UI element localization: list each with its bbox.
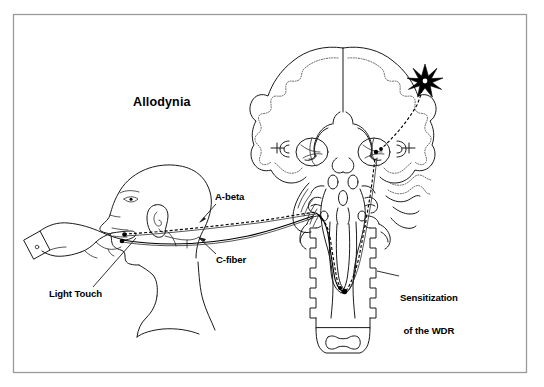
c-fiber-label: C-fiber (216, 255, 246, 266)
c-fiber-path (122, 216, 313, 244)
thalamocortical-path (380, 90, 422, 150)
wdr-synapse-dot (338, 286, 342, 290)
allodynia-figure: Allodynia A-beta C-fiber Light Touch Sen… (0, 0, 544, 387)
hand-pointing (24, 223, 136, 259)
a-beta-terminal-dot (122, 232, 127, 237)
sensitization-label: Sensitization of the WDR (400, 272, 458, 358)
a-beta-fiber-path (124, 212, 316, 234)
figure-title: Allodynia (133, 95, 191, 109)
a-beta-label: A-beta (215, 192, 244, 203)
cortical-activation-star-icon (407, 64, 443, 97)
sensitization-label-line1: Sensitization (400, 293, 458, 304)
ascending-tract (346, 90, 422, 291)
c-fiber-terminal-dot (120, 239, 125, 244)
head-profile (100, 165, 215, 337)
sensitization-leader (377, 271, 399, 276)
light-touch-label: Light Touch (49, 289, 102, 300)
ascending-spinothalamic-path (346, 158, 375, 291)
thalamic-relay-dot (374, 150, 378, 154)
brain-coronal-section (250, 47, 443, 189)
brainstem-spinal-cord (300, 186, 390, 353)
c-fiber-leader (199, 238, 216, 254)
sensitization-label-line2: of the WDR (400, 326, 458, 337)
cerebellum (293, 175, 432, 233)
anatomy-illustration (0, 0, 544, 387)
